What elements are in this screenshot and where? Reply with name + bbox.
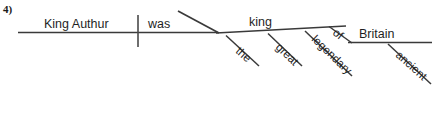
word-subject: King Authur bbox=[44, 17, 109, 31]
predicate-nominative-slant bbox=[178, 11, 219, 33]
complement-baseline bbox=[216, 26, 346, 33]
word-verb: was bbox=[147, 17, 170, 31]
sentence-diagram-svg: King Authur was king the great legendary… bbox=[0, 0, 439, 120]
word-modifier-great: great bbox=[274, 41, 302, 68]
word-preposition-of: of bbox=[331, 26, 347, 42]
sentence-diagram-container: 4) King Authur was king the great legend… bbox=[0, 0, 439, 120]
word-complement: king bbox=[249, 15, 272, 29]
word-modifier-ancient: ancient bbox=[394, 49, 430, 83]
word-prepositional-object: Britain bbox=[359, 27, 394, 41]
word-modifier-the: the bbox=[234, 45, 254, 65]
